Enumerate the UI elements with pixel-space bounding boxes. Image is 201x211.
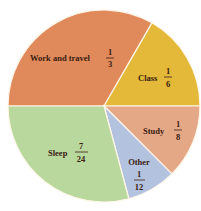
svg-text:6: 6 <box>166 79 170 89</box>
svg-text:1: 1 <box>176 119 180 129</box>
svg-text:Class: Class <box>138 73 158 83</box>
svg-text:1: 1 <box>108 47 112 57</box>
svg-text:3: 3 <box>108 59 112 69</box>
svg-text:1: 1 <box>137 169 141 179</box>
svg-text:8: 8 <box>176 132 180 142</box>
svg-text:Other: Other <box>128 157 150 167</box>
svg-text:Study: Study <box>143 126 165 136</box>
pie-chart: Work and travel 1 3 Class 1 6 Study 1 8 … <box>0 0 201 211</box>
svg-text:1: 1 <box>166 66 170 76</box>
svg-text:24: 24 <box>77 154 86 164</box>
svg-text:Work and travel: Work and travel <box>30 53 91 63</box>
svg-text:Sleep: Sleep <box>48 148 68 158</box>
svg-text:12: 12 <box>135 182 144 192</box>
